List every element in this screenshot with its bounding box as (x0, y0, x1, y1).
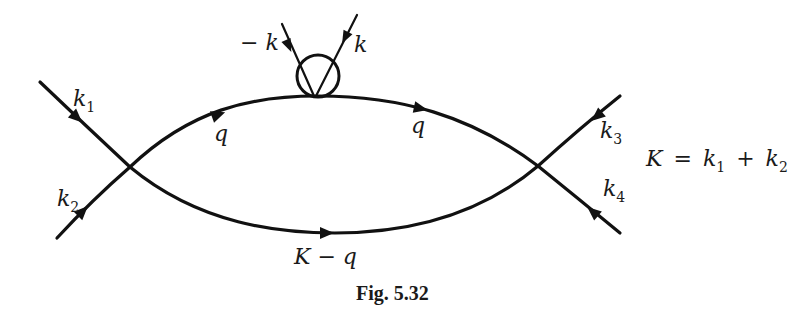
k3-label: k3 (600, 118, 622, 147)
lower-propagator-K-minus-q (130, 166, 538, 233)
q-right-label: q (411, 113, 425, 138)
k-label: k (354, 32, 367, 57)
q-left-label: q (214, 121, 228, 146)
k-arrow-icon (338, 30, 353, 46)
K-minus-q-label: K − q (293, 244, 357, 269)
K-minus-q-arrow-icon (320, 227, 334, 239)
k1-label: k1 (73, 86, 95, 115)
upper-propagator-q (130, 96, 538, 167)
feynman-diagram: k1 k2 q q − k k k3 k4 K − q K = k1 + k2 … (0, 0, 798, 310)
figure-caption: Fig. 5.32 (356, 282, 429, 305)
k2-label: k2 (57, 186, 79, 215)
momentum-relation: K = k1 + k2 (645, 146, 788, 177)
k4-label: k4 (603, 176, 625, 205)
minus-k-label: − k (240, 30, 279, 55)
